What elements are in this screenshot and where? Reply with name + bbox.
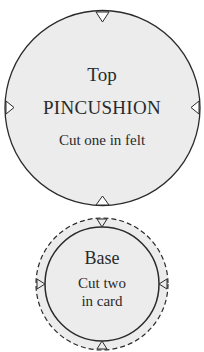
base-piece-title: Base xyxy=(85,248,120,269)
pattern-name: PINCUSHION xyxy=(43,97,161,119)
top-piece-title: Top xyxy=(87,64,116,86)
base-piece-instruction-line2: in card xyxy=(81,293,122,310)
base-piece-instruction-line1: Cut two xyxy=(78,275,126,292)
top-piece-instruction: Cut one in felt xyxy=(59,132,145,149)
